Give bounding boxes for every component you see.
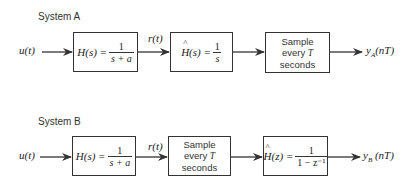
system-b-intermediate-label: r(t) <box>148 140 163 152</box>
fraction-numerator: 1 <box>213 41 222 52</box>
system-a-integrator-block: H(s) = 1s <box>170 32 233 72</box>
sampler-every: every <box>184 150 210 161</box>
fraction-denominator: 1 − z⁻¹ <box>295 156 327 168</box>
sampler-line-1: Sample <box>182 139 217 150</box>
fraction-denominator: s + a <box>109 52 134 64</box>
system-a-analog-filter-block: H(s) = 1s + a <box>73 32 138 72</box>
system-a-input-label: u(t) <box>19 44 35 56</box>
system-a-output-label: yA(nT) <box>366 44 394 59</box>
transfer-lhs: H(s) = <box>76 150 106 162</box>
system-b-output-label: yB (nT) <box>363 149 394 164</box>
system-b-sampler-block: Sample every T seconds <box>168 136 231 176</box>
system-b-title: System B <box>38 116 81 127</box>
sampler-line-1: Sample <box>280 36 315 47</box>
fraction-numerator: 1 <box>117 41 126 52</box>
sampler-line-2: every T <box>182 150 217 162</box>
fraction-numerator: 1 <box>115 145 124 156</box>
fraction-denominator: s <box>213 52 221 64</box>
sampler-line-2: every T <box>280 47 315 59</box>
transfer-lhs: H(z) = <box>264 150 294 162</box>
sampler-period-var: T <box>308 48 313 58</box>
system-a-sampler-block: Sample every T seconds <box>265 32 330 73</box>
system-a-intermediate-label: r(t) <box>148 32 163 44</box>
sampler-line-3: seconds <box>182 162 217 173</box>
system-b-discrete-integrator-block: H(z) = 11 − z⁻¹ <box>263 136 328 176</box>
fraction-numerator: 1 <box>307 145 316 156</box>
sampler-period-var: T <box>210 151 215 161</box>
output-argument: (nT) <box>375 44 394 56</box>
transfer-lhs: H(s) = <box>181 46 211 58</box>
system-b-analog-filter-block: H(s) = 1s + a <box>72 136 136 176</box>
fraction-denominator: s + a <box>108 156 133 168</box>
transfer-lhs: H(s) = <box>77 46 107 58</box>
sampler-every: every <box>282 47 308 58</box>
sampler-line-3: seconds <box>280 59 315 70</box>
system-a-title: System A <box>38 11 80 22</box>
system-b-input-label: u(t) <box>19 149 35 161</box>
output-argument: (nT) <box>372 149 394 161</box>
